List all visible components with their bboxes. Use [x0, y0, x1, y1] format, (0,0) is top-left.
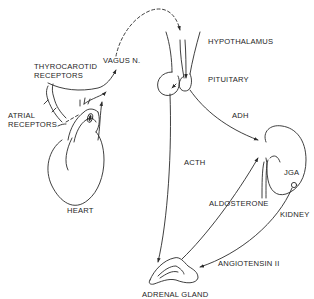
aldosterone-label: ALDOSTERONE — [209, 199, 269, 208]
receptor-afferent-arrows — [48, 70, 116, 140]
adrenal-gland-drawing — [149, 258, 198, 285]
pituitary-label: PITUITARY — [208, 75, 249, 84]
atrial-label-line1: ATRIAL — [8, 111, 35, 120]
kidney-label: KIDNEY — [280, 210, 309, 219]
adrenal-gland-label: ADRENAL GLAND — [142, 290, 209, 299]
adh-label: ADH — [232, 111, 249, 120]
thyrocarotid-label-line1: THYROCAROTID — [34, 62, 97, 71]
aldosterone-arrow — [182, 158, 258, 259]
vagus-label: VAGUS N. — [103, 56, 140, 65]
hypothalamus-pituitary-drawing — [158, 32, 200, 95]
acth-label: ACTH — [184, 158, 205, 167]
atrial-label-line2: RECEPTORS — [8, 120, 57, 129]
acth-arrow — [158, 94, 171, 262]
thyrocarotid-label-line2: RECEPTORS — [34, 71, 83, 80]
jga-label: JGA — [284, 168, 300, 177]
heart-drawing — [44, 84, 104, 205]
heart-label: HEART — [67, 206, 94, 215]
hypothalamus-label: HYPOTHALAMUS — [208, 37, 273, 46]
fluid-regulation-diagram: HEART THYROCAROTID RECEPTORS ATRIAL RECE… — [0, 0, 314, 299]
kidney-drawing — [262, 126, 306, 198]
angiotensin-label: ANGIOTENSIN II — [218, 259, 279, 268]
